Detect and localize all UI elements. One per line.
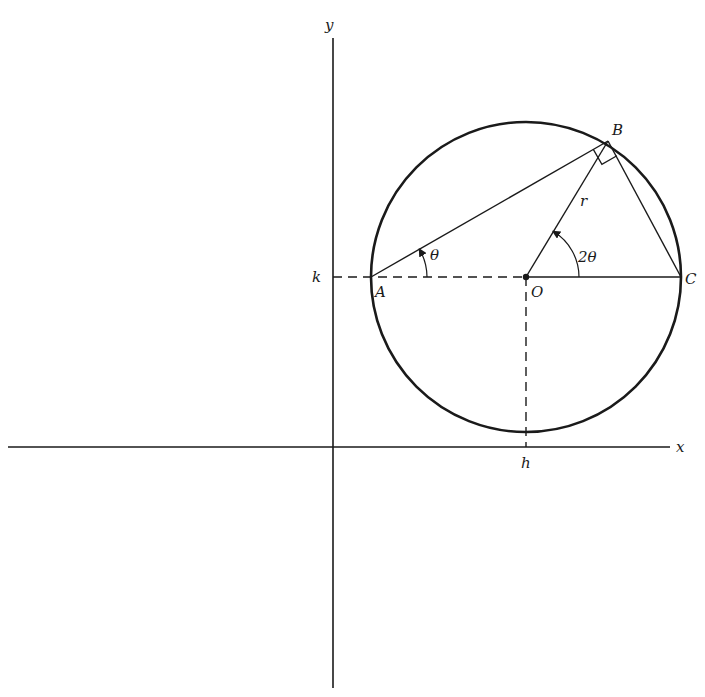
radius-label: r [580, 192, 588, 210]
tick-label-h: h [521, 454, 531, 472]
segment-AB [371, 141, 608, 277]
angle-theta-label: θ [430, 246, 439, 264]
point-label-O: O [531, 283, 543, 301]
y-axis-label: y [324, 16, 334, 34]
diagram-canvas: x y θ 2θ r A B C O k h [0, 0, 705, 697]
x-axis-label: x [676, 438, 685, 456]
point-label-B: B [611, 121, 623, 139]
center-point-O [523, 274, 529, 280]
segment-BC [608, 141, 681, 277]
point-label-A: A [373, 283, 386, 301]
angle-2theta-arc [553, 232, 579, 277]
angle-theta-arc [420, 250, 427, 278]
angle-2theta-label: 2θ [577, 248, 597, 266]
tick-label-k: k [312, 268, 321, 286]
point-label-C: C [685, 270, 697, 288]
